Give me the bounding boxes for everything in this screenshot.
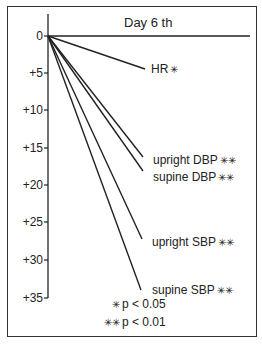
label-supine-dbp: supine DBP✳✳ [153,170,234,184]
tick-label: +25 [23,215,44,229]
tick-label: +5 [29,66,43,80]
tick-label: +20 [23,178,44,192]
legend-p05: ✳p < 0.05 [112,297,166,311]
label-hr: HR✳ [151,62,178,76]
chart-svg: 0 +5 +10 +15 +20 +25 +30 +35 Day 6 th HR… [0,0,262,346]
legend-p01: ✳✳p < 0.01 [104,315,166,329]
tick-label: +10 [23,103,44,117]
tick-label: +30 [23,253,44,267]
chart-title: Day 6 th [124,15,172,30]
y-tick-labels: 0 +5 +10 +15 +20 +25 +30 +35 [23,29,44,305]
tick-label: 0 [36,29,43,43]
tick-label: +15 [23,141,44,155]
label-supine-sbp: supine SBP✳✳ [152,283,233,297]
line-supine-sbp [48,36,141,290]
label-upright-dbp: upright DBP✳✳ [153,153,236,167]
tick-label: +35 [23,291,44,305]
label-upright-sbp: upright SBP✳✳ [152,235,234,249]
line-supine-dbp [48,36,143,171]
line-hr [48,36,145,69]
